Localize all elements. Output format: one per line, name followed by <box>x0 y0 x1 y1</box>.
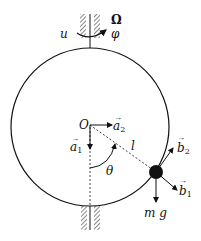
theta-label: θ <box>106 164 114 178</box>
b1-vector-accent-icon: → <box>179 176 187 185</box>
bottom-bearing <box>81 206 100 230</box>
b2-vector-accent-icon: → <box>177 133 185 142</box>
phi-label: φ <box>111 27 120 41</box>
b2-label: b2 <box>177 141 190 156</box>
u-label: u <box>60 27 68 41</box>
origin-label: O <box>79 118 89 132</box>
a2-vector-accent-icon: → <box>114 113 122 122</box>
b1-vector-arrow <box>156 172 177 190</box>
omega-label: Ω <box>111 13 122 27</box>
a1-vector-accent-icon: → <box>71 134 79 143</box>
top-bearing <box>80 14 100 48</box>
weight-label: m g <box>144 206 167 220</box>
b1-label: b1 <box>179 184 192 199</box>
pendulum-hoop-diagram: u Ω φ O a2 → a1 → l θ b2 → b1 → m g <box>0 0 201 241</box>
length-label: l <box>131 139 135 153</box>
